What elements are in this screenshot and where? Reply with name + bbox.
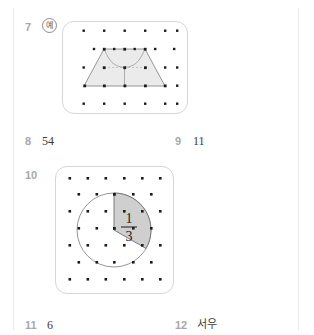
question-number-12: 12: [175, 320, 187, 331]
right-margin-rule: [298, 8, 299, 330]
geoboard-circle-svg: 1 3: [56, 167, 173, 293]
left-margin-rule: [13, 8, 14, 330]
question-number-9: 9: [175, 136, 181, 147]
worksheet-answer-page: 7 예: [0, 0, 314, 335]
answer-12: 서우: [197, 319, 217, 330]
geoboard-trapezoid: [62, 21, 188, 114]
question-number-8: 8: [25, 136, 31, 147]
question-number-7: 7: [25, 22, 31, 33]
answer-badge-7-text: 예: [46, 22, 53, 30]
geoboard-circle-third: 1 3: [55, 166, 174, 294]
question-number-11: 11: [25, 320, 37, 331]
answer-8: 54: [42, 135, 54, 147]
answer-badge-7: 예: [42, 18, 57, 33]
question-number-10: 10: [25, 170, 37, 181]
geoboard-trapezoid-svg: [63, 22, 187, 113]
fraction-numerator: 1: [126, 211, 133, 226]
answer-11: 6: [47, 319, 53, 331]
fraction-denominator: 3: [126, 229, 133, 244]
answer-9: 11: [193, 135, 205, 147]
